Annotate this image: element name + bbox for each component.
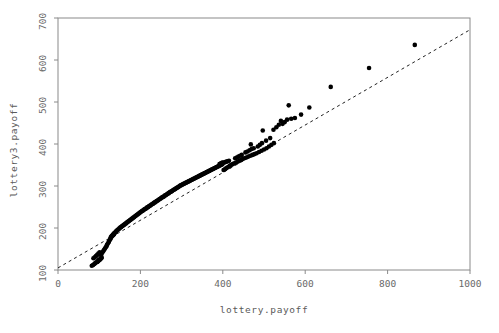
data-point [289, 117, 294, 122]
data-point [260, 128, 265, 133]
x-tick-label: 400 [214, 278, 231, 289]
data-point [97, 250, 102, 255]
y-tick-label: 300 [37, 181, 48, 198]
y-axis-title: lottery3.payoff [8, 103, 19, 198]
y-tick-label: 700 [37, 13, 48, 30]
data-point [251, 146, 256, 151]
data-point [260, 141, 265, 146]
data-point [227, 159, 232, 164]
y-tick-label: 200 [37, 223, 48, 240]
x-tick-label: 200 [132, 278, 149, 289]
data-point [249, 142, 254, 147]
x-tick-label: 0 [55, 278, 61, 289]
figure-background [0, 0, 499, 333]
data-point [272, 141, 277, 146]
data-point [328, 85, 333, 90]
data-point [97, 257, 102, 262]
x-tick-label: 1000 [459, 278, 482, 289]
data-point [282, 120, 287, 125]
y-tick-label: 500 [37, 97, 48, 114]
data-point [307, 105, 312, 110]
y-tick-label: 400 [37, 139, 48, 156]
data-point [112, 232, 117, 237]
qq-plot-figure: 02004006008001000 100200300400500600700 … [0, 0, 499, 333]
y-tick-label: 600 [37, 55, 48, 72]
data-point [286, 103, 291, 108]
x-axis-title: lottery.payoff [220, 304, 308, 315]
x-tick-label: 800 [379, 278, 396, 289]
scatter-plot-canvas: 02004006008001000 100200300400500600700 … [0, 0, 499, 333]
data-point [264, 138, 269, 143]
x-tick-label: 600 [297, 278, 314, 289]
data-point [268, 136, 273, 141]
y-tick-label: 100 [37, 265, 48, 282]
data-point [299, 112, 304, 117]
data-point [412, 43, 417, 48]
data-point [367, 66, 372, 71]
